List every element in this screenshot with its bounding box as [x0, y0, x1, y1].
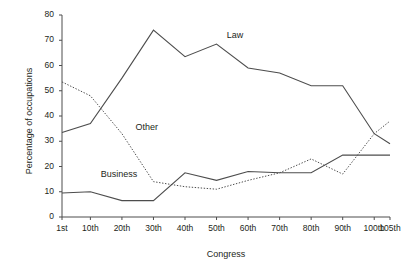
y-tick-label: 10: [28, 186, 54, 196]
y-tick-label: 30: [28, 135, 54, 145]
y-tick-label: 40: [28, 110, 54, 120]
series-line-law: [62, 30, 390, 144]
series-label-business: Business: [101, 169, 138, 179]
series-label-other: Other: [135, 122, 158, 132]
x-axis-title: Congress: [62, 249, 390, 259]
y-tick-label: 50: [28, 85, 54, 95]
y-tick-label: 80: [28, 9, 54, 19]
y-tick-label: 70: [28, 34, 54, 44]
y-tick-label: 60: [28, 60, 54, 70]
y-tick-label: 0: [28, 211, 54, 221]
y-tick-label: 20: [28, 161, 54, 171]
series-label-law: Law: [227, 30, 244, 40]
line-chart: Percentage of occupations Congress 01020…: [0, 0, 403, 274]
x-tick-label: 105th: [370, 223, 403, 233]
